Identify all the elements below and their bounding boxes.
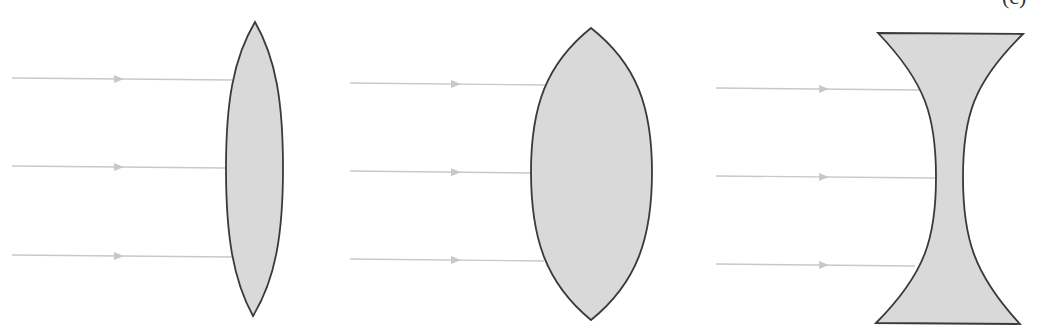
arrowhead-icon (819, 85, 829, 93)
arrowhead-icon (451, 80, 461, 88)
ray-thin-convex-2 (12, 163, 226, 171)
arrowhead-icon (114, 75, 124, 83)
arrowhead-icon (451, 168, 461, 176)
ray-thick-convex-2 (350, 168, 531, 176)
ray-thick-convex-3 (350, 256, 544, 264)
ray-concave-1 (716, 85, 920, 93)
thick-convex-lens (531, 28, 652, 320)
thin-convex-lens (226, 22, 283, 316)
arrowhead-icon (451, 256, 461, 264)
ray-concave-3 (716, 261, 915, 269)
lenses (226, 22, 1023, 324)
concave-lens (876, 33, 1023, 324)
arrowhead-icon (819, 173, 829, 181)
ray-concave-2 (716, 173, 936, 181)
panel-label-partial: (c) (1002, 0, 1026, 10)
ray-thin-convex-3 (12, 252, 232, 260)
arrowhead-icon (114, 163, 124, 171)
ray-thick-convex-1 (350, 80, 546, 88)
light-rays (12, 75, 936, 269)
ray-thin-convex-1 (12, 75, 232, 83)
arrowhead-icon (819, 261, 829, 269)
lens-diagram (0, 0, 1047, 335)
arrowhead-icon (114, 252, 124, 260)
